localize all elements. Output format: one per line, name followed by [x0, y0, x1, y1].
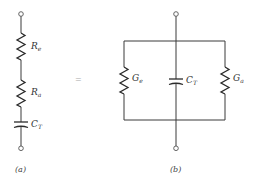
resistor-ge-icon	[120, 67, 128, 94]
label-ge: Ge	[132, 73, 143, 84]
terminal-b-bottom	[174, 146, 179, 151]
caption-b: (b)	[170, 165, 181, 174]
label-ra: Ra	[30, 87, 42, 98]
resistor-ra-icon	[17, 80, 25, 107]
label-ct-b: CT	[186, 75, 198, 86]
terminal-a-top	[19, 12, 24, 17]
label-ct-a: CT	[31, 119, 43, 130]
circuit-a: Re Ra CT (a)	[14, 12, 43, 174]
resistor-re-icon	[17, 33, 25, 60]
terminal-b-top	[174, 12, 179, 17]
terminal-a-bottom	[19, 146, 24, 151]
label-re: Re	[30, 41, 42, 52]
resistor-ga-icon	[221, 67, 229, 94]
caption-a: (a)	[15, 165, 26, 174]
circuit-b: Ge CT Ga (b)	[120, 12, 244, 174]
circuit-diagram: Re Ra CT (a) = Ge CT Ga (b)	[0, 0, 258, 181]
equals-sign: =	[75, 75, 82, 84]
label-ga: Ga	[233, 73, 244, 84]
